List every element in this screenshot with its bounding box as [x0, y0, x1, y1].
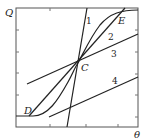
point-c-label: C: [81, 62, 89, 73]
line-3-label: 3: [111, 49, 117, 59]
line-4: [49, 77, 138, 117]
point-e-label: E: [117, 15, 126, 26]
y-axis-label: Q: [5, 7, 13, 18]
line-2-label: 2: [108, 32, 114, 42]
diagram: Q θ C D E 1 2 3 4: [0, 0, 152, 140]
point-d-label: D: [23, 105, 32, 116]
x-axis-label: θ: [134, 129, 140, 140]
line-3: [27, 34, 138, 84]
line-1-label: 1: [86, 16, 92, 26]
line-4-label: 4: [112, 76, 118, 86]
